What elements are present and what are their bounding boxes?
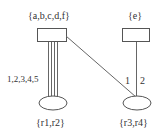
node-bottom-right-ellipse — [123, 96, 151, 110]
diagram-canvas: {a,b,c,d,f} {e} 1,2,3,4,5 1 2 {r1,r2} {r… — [0, 0, 160, 138]
label-bottom-left: {r1,r2} — [36, 118, 65, 128]
edge-diagonal — [66, 36, 136, 97]
label-top-left: {a,b,c,d,f} — [28, 11, 70, 21]
label-top-right: {e} — [128, 11, 142, 21]
label-edge-left: 1,2,3,4,5 — [7, 75, 39, 84]
node-top-right-box — [123, 29, 150, 42]
label-edge-right: 2 — [140, 76, 145, 86]
label-edge-diag: 1 — [125, 76, 130, 86]
node-bottom-left-ellipse — [39, 96, 67, 110]
node-top-left-box — [38, 29, 67, 42]
label-bottom-right: {r3,r4} — [119, 118, 148, 128]
